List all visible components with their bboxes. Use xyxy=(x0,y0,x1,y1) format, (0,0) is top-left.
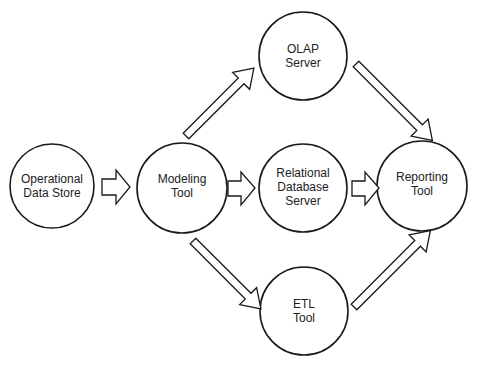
label-etl-tool: ETL Tool xyxy=(259,297,349,325)
label-line: Database xyxy=(258,180,348,194)
label-olap-server: OLAP Server xyxy=(258,42,348,70)
label-line: Server xyxy=(258,56,348,70)
arrow-rdbms-to-reporting xyxy=(352,172,379,205)
label-line: Reporting xyxy=(377,170,467,184)
label-line: Relational xyxy=(258,166,348,180)
label-relational-database-server: Relational Database Server xyxy=(258,166,348,208)
arrow-olap-to-reporting xyxy=(348,56,441,149)
arrow-ods-to-modeling xyxy=(102,170,130,204)
arrow-modeling-to-rdbms xyxy=(228,172,255,205)
label-line: Operational xyxy=(7,172,97,186)
arrow-modeling-to-olap xyxy=(178,60,263,145)
label-line: Modeling xyxy=(137,172,227,186)
label-operational-data-store: Operational Data Store xyxy=(7,172,97,200)
arrow-etl-to-reporting xyxy=(346,222,439,315)
label-modeling-tool: Modeling Tool xyxy=(137,172,227,200)
label-line: Tool xyxy=(259,311,349,325)
label-reporting-tool: Reporting Tool xyxy=(377,170,467,198)
label-line: ETL xyxy=(259,297,349,311)
label-line: Server xyxy=(258,194,348,208)
label-line: Tool xyxy=(137,186,227,200)
label-line: Data Store xyxy=(7,186,97,200)
label-line: Tool xyxy=(377,184,467,198)
arrow-modeling-to-etl xyxy=(185,233,270,318)
label-line: OLAP xyxy=(258,42,348,56)
